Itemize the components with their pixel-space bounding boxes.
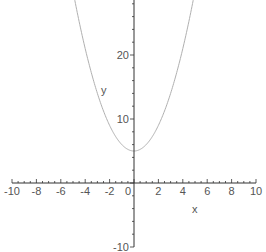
y-tick-label: 20 [117, 49, 129, 61]
x-tick-label: -10 [4, 185, 20, 197]
x-tick-label: -8 [32, 185, 42, 197]
x-tick-label: 8 [229, 185, 235, 197]
x-tick-label: -6 [56, 185, 66, 197]
x-tick-label: -4 [80, 185, 90, 197]
x-tick-label: 0 [125, 185, 131, 197]
x-tick-label: 10 [250, 185, 262, 197]
y-tick-label: -10 [113, 241, 129, 252]
x-tick-label: 6 [204, 185, 210, 197]
y-axis-label: y [101, 84, 107, 96]
axes [12, 0, 256, 247]
plot-area: -10-8-6-4-20246810-101020 x y [0, 0, 266, 252]
x-tick-label: 2 [155, 185, 161, 197]
x-tick-label: 4 [180, 185, 186, 197]
y-tick-label: 10 [117, 113, 129, 125]
x-axis-label: x [192, 203, 198, 215]
x-tick-label: -2 [105, 185, 115, 197]
